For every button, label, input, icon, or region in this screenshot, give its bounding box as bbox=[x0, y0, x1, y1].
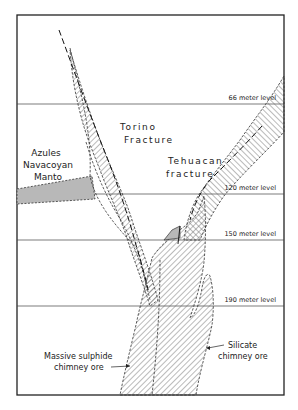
silicate-pointer bbox=[208, 345, 224, 348]
torino-label-line1: Torino bbox=[119, 122, 157, 132]
level-label-150: 150 meter level bbox=[224, 230, 276, 238]
tehuacan-label-line2: fracture bbox=[166, 169, 214, 179]
azules-label-line2: Navacoyan bbox=[23, 160, 73, 170]
chimney-ore-body bbox=[120, 196, 213, 395]
level-label-190: 190 meter level bbox=[224, 296, 276, 304]
ore-chimney-cross-section: 66 meter level 120 meter level 150 meter… bbox=[0, 0, 298, 410]
silicate-label-line2: chimney ore bbox=[218, 352, 268, 361]
torino-label-line2: Fracture bbox=[124, 135, 174, 145]
azules-label-line1: Azules bbox=[31, 148, 61, 158]
azules-label-line3: Manto bbox=[34, 172, 63, 182]
gray-lens bbox=[164, 226, 180, 240]
massive-sulphide-label-line2: chimney ore bbox=[54, 363, 104, 372]
massive-sulphide-label-line1: Massive sulphide bbox=[44, 352, 112, 361]
silicate-label-line1: Silicate bbox=[228, 341, 257, 350]
level-label-66: 66 meter level bbox=[229, 94, 277, 102]
level-label-120: 120 meter level bbox=[224, 184, 276, 192]
tehuacan-label-line1: Tehuacan bbox=[167, 156, 223, 166]
